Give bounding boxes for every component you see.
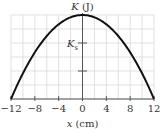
x-tick-label: 0 — [79, 103, 85, 114]
x-axis-label: x (cm) — [67, 118, 99, 129]
x-tick-label: 8 — [127, 103, 133, 114]
ks-label: Ks — [66, 38, 78, 52]
x-tick-label: 12 — [148, 103, 161, 114]
x-tick-label: 4 — [103, 103, 109, 114]
kinetic-energy-chart: K (J) Ks −12−8−404812 x (cm) — [0, 0, 164, 132]
x-tick-labels: −12−8−404812 — [0, 103, 160, 114]
x-tick-label: −12 — [0, 103, 21, 114]
y-axis-label: K (J) — [70, 1, 94, 12]
x-tick-label: −8 — [27, 103, 42, 114]
x-tick-label: −4 — [51, 103, 66, 114]
